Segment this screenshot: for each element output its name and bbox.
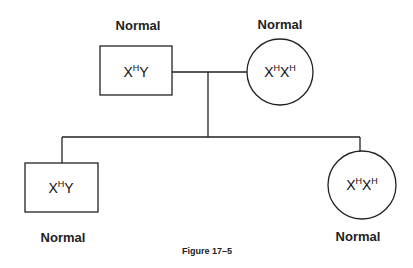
- mother-label: Normal: [258, 17, 303, 32]
- son-label: Normal: [41, 230, 86, 245]
- pedigree-svg: Normal XHY Normal XHXH XHY Normal XHXH N…: [0, 0, 413, 268]
- father-label: Normal: [116, 18, 161, 33]
- daughter-label: Normal: [336, 229, 381, 244]
- figure-caption: Figure 17–5: [182, 246, 232, 256]
- pedigree-diagram: Normal XHY Normal XHXH XHY Normal XHXH N…: [0, 0, 413, 268]
